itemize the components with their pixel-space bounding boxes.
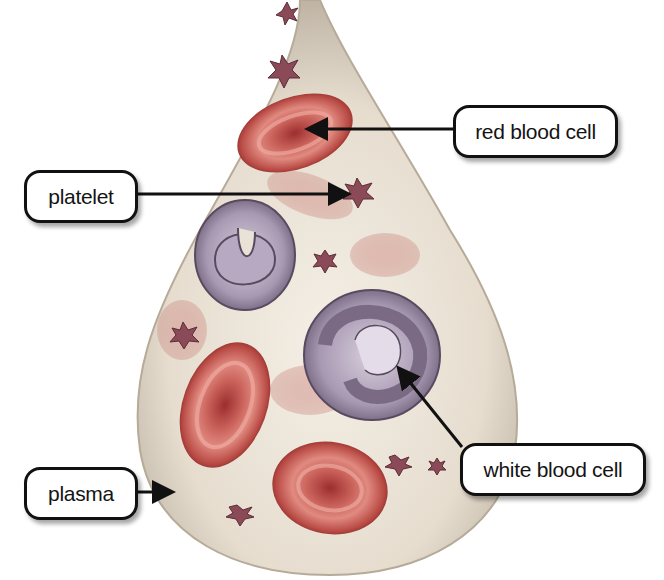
- blood-diagram: red blood cell platelet white blood cell…: [0, 0, 664, 580]
- label-white-blood-cell: white blood cell: [460, 443, 646, 496]
- label-platelet: platelet: [24, 170, 138, 223]
- white-blood-cell-small: [195, 200, 295, 310]
- label-plasma: plasma: [24, 467, 138, 520]
- label-red-blood-cell: red blood cell: [453, 105, 618, 158]
- white-blood-cell-large: [304, 290, 440, 420]
